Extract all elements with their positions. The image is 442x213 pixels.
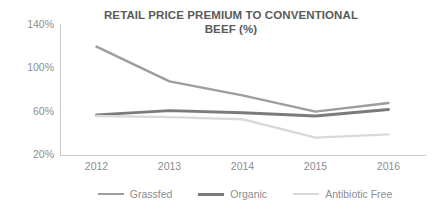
series-line-antibiotic-free [97,116,389,138]
legend-swatch-icon [98,193,124,195]
legend-label: Antibiotic Free [325,188,392,200]
x-axis-tick-labels: 20122013201420152016 [60,160,426,176]
legend-swatch-icon [293,193,319,195]
x-axis-tick-2015: 2015 [304,160,327,172]
x-axis-tick-2013: 2013 [158,160,181,172]
x-axis-tick-2014: 2014 [231,160,254,172]
x-axis-tick-2012: 2012 [85,160,108,172]
series-line-organic [97,110,389,117]
legend-swatch-icon [198,193,224,196]
chart-container: RETAIL PRICE PREMIUM TO CONVENTIONAL BEE… [0,0,442,213]
series-line-grassfed [97,47,389,112]
legend-item-organic[interactable]: Organic [198,188,267,200]
chart-legend: GrassfedOrganicAntibiotic Free [60,183,430,205]
x-axis-tick-2016: 2016 [377,160,400,172]
legend-label: Organic [230,188,267,200]
series-plot [0,0,442,213]
legend-item-grassfed[interactable]: Grassfed [98,188,173,200]
legend-label: Grassfed [130,188,173,200]
legend-item-antibiotic-free[interactable]: Antibiotic Free [293,188,392,200]
